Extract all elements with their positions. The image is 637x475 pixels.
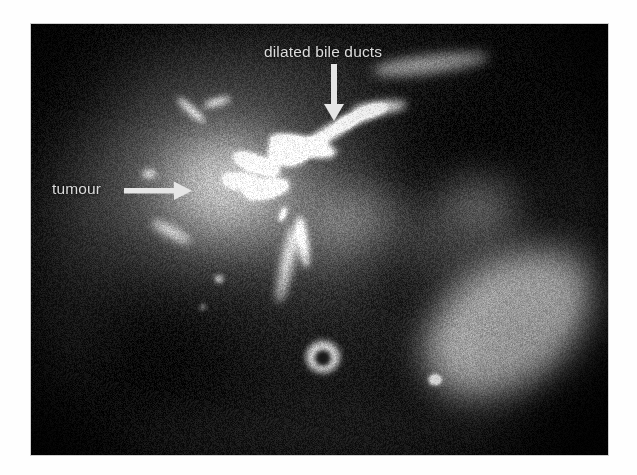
mri-scan-panel	[31, 24, 608, 455]
figure-root: dilated bile ducts tumour	[0, 0, 637, 475]
mri-scan-canvas	[31, 24, 608, 455]
